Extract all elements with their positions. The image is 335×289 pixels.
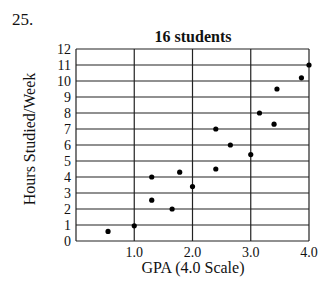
data-point — [274, 86, 279, 91]
y-tick-label: 6 — [64, 138, 71, 153]
y-tick-label: 4 — [64, 170, 71, 185]
y-tick-label: 5 — [64, 154, 71, 169]
y-tick-label: 10 — [57, 74, 71, 89]
data-point — [213, 166, 218, 171]
data-point — [257, 110, 262, 115]
data-point — [271, 122, 276, 127]
data-point — [132, 223, 137, 228]
data-point — [248, 152, 253, 157]
y-tick-label: 9 — [64, 90, 71, 105]
y-tick-label: 0 — [64, 234, 71, 249]
scatter-plot: 01234567891011121.02.03.04.0 — [0, 0, 335, 289]
y-tick-label: 2 — [64, 202, 71, 217]
y-tick-label: 1 — [64, 218, 71, 233]
x-axis-label: GPA (4.0 Scale) — [76, 259, 310, 277]
x-tick-label: 4.0 — [300, 245, 318, 260]
data-point — [170, 206, 175, 211]
y-axis-label: Hours Studied/Week — [21, 69, 39, 209]
data-point — [228, 142, 233, 147]
x-tick-label: 2.0 — [184, 245, 202, 260]
data-point — [105, 229, 110, 234]
x-tick-label: 1.0 — [126, 245, 144, 260]
y-tick-label: 3 — [64, 186, 71, 201]
data-point — [299, 75, 304, 80]
x-tick-label: 3.0 — [242, 245, 260, 260]
data-point — [213, 126, 218, 131]
y-tick-label: 12 — [57, 42, 71, 57]
data-point — [149, 198, 154, 203]
data-point — [306, 62, 311, 67]
y-tick-label: 11 — [58, 58, 71, 73]
data-point — [149, 174, 154, 179]
y-tick-label: 8 — [64, 106, 71, 121]
data-point — [177, 170, 182, 175]
y-tick-label: 7 — [64, 122, 71, 137]
data-point — [190, 184, 195, 189]
